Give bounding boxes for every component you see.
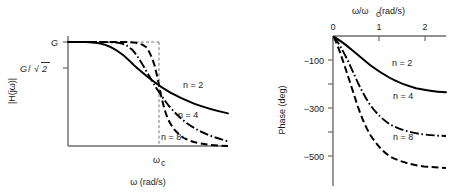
- left-xtick-wc-base: ω: [153, 155, 160, 165]
- left-curve-n4: [68, 42, 228, 141]
- left-curve-n2: [68, 42, 228, 113]
- right-ytick-label-m500: −500: [304, 152, 324, 162]
- left-curve-label-n8: n = 8: [161, 132, 181, 142]
- left-ytick-label-slash: /: [28, 64, 31, 74]
- figure-canvas: G G / √ 2 |H(jω)| ω c ω (rad/s) n = 2 n …: [0, 0, 460, 194]
- left-xtick-wc-sub: c: [161, 158, 166, 168]
- figure-butterworth-response: G G / √ 2 |H(jω)| ω c ω (rad/s) n = 2 n …: [0, 0, 460, 194]
- magnitude-panel: G G / √ 2 |H(jω)| ω c ω (rad/s) n = 2 n …: [7, 36, 228, 187]
- left-ytick-label-G: G: [51, 38, 58, 48]
- phase-panel: 0 1 2 ω/ω c (rad/s) −100 −300 −500 Phase…: [277, 6, 446, 186]
- right-x-axis-title-unit: (rad/s): [379, 6, 405, 16]
- right-curve-label-n8: n = 8: [393, 132, 413, 142]
- left-ytick-label-G-num: G: [20, 64, 27, 74]
- left-y-axis-title: |H(jω)|: [7, 78, 17, 104]
- right-ytick-label-m300: −300: [304, 104, 324, 114]
- left-ytick-label-den: 2: [41, 64, 47, 74]
- right-xtick-label-1: 1: [376, 22, 381, 32]
- radical-icon: √: [34, 64, 39, 74]
- left-curve-n8: [68, 42, 228, 146]
- left-xtick-label-wc: ω c: [153, 155, 166, 168]
- right-xtick-label-2: 2: [422, 22, 427, 32]
- left-ytick-label-Gsqrt2: G / √ 2: [20, 63, 50, 75]
- right-curve-label-n2: n = 2: [392, 58, 412, 68]
- right-y-axis-title: Phase (deg): [277, 85, 287, 134]
- right-x-axis-title: ω/ω c (rad/s): [352, 6, 405, 19]
- left-x-axis-title: ω (rad/s): [130, 177, 166, 187]
- left-curve-label-n2: n = 2: [183, 80, 203, 90]
- right-curve-n8: [334, 37, 446, 168]
- right-x-axis-title-base: ω/ω: [352, 6, 369, 16]
- right-ytick-label-m100: −100: [304, 56, 324, 66]
- left-curve-label-n4: n = 4: [178, 110, 198, 120]
- right-y-axis-title-text: Phase (deg): [277, 85, 287, 134]
- right-curve-n2: [334, 37, 446, 92]
- right-xtick-label-0: 0: [330, 22, 335, 32]
- left-y-axis-title-text: |H(jω)|: [7, 78, 17, 104]
- right-curve-label-n4: n = 4: [393, 91, 413, 101]
